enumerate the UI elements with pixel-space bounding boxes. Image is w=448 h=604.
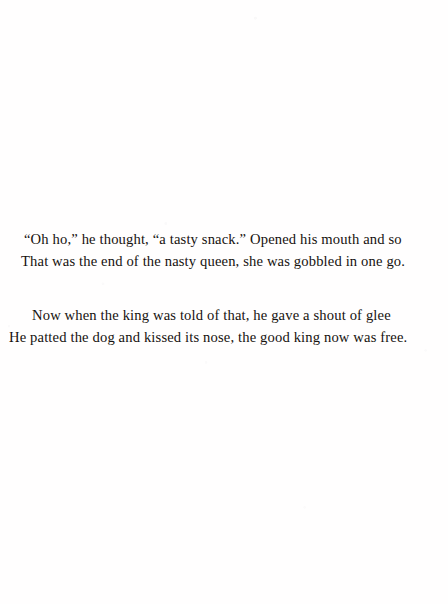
verse-line: That was the end of the nasty queen, she… [0, 250, 448, 272]
verse-line: “Oh ho,” he thought, “a tasty snack.” Op… [0, 228, 448, 250]
stanza: Now when the king was told of that, he g… [0, 304, 448, 349]
verse-line: He patted the dog and kissed its nose, t… [0, 326, 448, 348]
verse-line: Now when the king was told of that, he g… [0, 304, 448, 326]
stanza: “Oh ho,” he thought, “a tasty snack.” Op… [0, 228, 448, 273]
scanned-page: “Oh ho,” he thought, “a tasty snack.” Op… [0, 0, 448, 604]
poem-text-block: “Oh ho,” he thought, “a tasty snack.” Op… [0, 228, 448, 348]
